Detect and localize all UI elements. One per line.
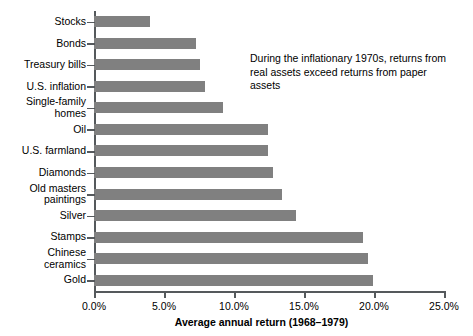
x-axis-tick (374, 291, 376, 298)
bar-row (94, 226, 444, 248)
y-axis-tick (87, 259, 95, 261)
x-axis-tick (444, 291, 446, 298)
y-axis-tick (87, 237, 95, 239)
y-axis-label: U.S. farmland (0, 145, 86, 157)
y-axis-label: Old masters paintings (0, 183, 86, 206)
bar (94, 232, 363, 243)
x-axis-tick (304, 291, 306, 298)
y-axis-tick (87, 108, 95, 110)
x-axis-tick (234, 291, 236, 298)
y-axis-label: Treasury bills (0, 59, 86, 71)
bar-row (94, 140, 444, 162)
bar (94, 124, 268, 135)
y-axis-label: Stocks (0, 16, 86, 28)
x-axis-line (94, 291, 445, 293)
y-axis-tick (87, 280, 95, 282)
y-axis-label: Single-family homes (0, 96, 86, 119)
bar (94, 81, 205, 92)
y-axis-tick (87, 65, 95, 67)
bar-row (94, 11, 444, 33)
x-axis-title: Average annual return (1968–1979) (0, 316, 473, 328)
bar (94, 167, 273, 178)
y-axis-tick (87, 151, 95, 153)
bar (94, 102, 223, 113)
chart-annotation: During the inflationary 1970s, returns f… (250, 52, 450, 93)
y-axis-label: Diamonds (0, 167, 86, 179)
y-axis-tick (87, 173, 95, 175)
x-axis-tick-label: 15.0% (289, 300, 319, 312)
bar (94, 253, 368, 264)
y-axis-label: U.S. inflation (0, 81, 86, 93)
x-axis-tick-label: 20.0% (359, 300, 389, 312)
y-axis-tick (87, 43, 95, 45)
bar-row (94, 119, 444, 141)
x-axis-tick-label: 25.0% (429, 300, 459, 312)
y-axis-label: Stamps (0, 231, 86, 243)
y-axis-tick (87, 22, 95, 24)
x-axis-tick (164, 291, 166, 298)
bar-row (94, 33, 444, 55)
x-axis-tick (94, 291, 96, 298)
bar (94, 145, 268, 156)
bar (94, 210, 296, 221)
y-axis-category-labels: StocksBondsTreasury billsU.S. inflationS… (0, 11, 86, 291)
bar-row (94, 162, 444, 184)
bar (94, 275, 373, 286)
bar (94, 16, 150, 27)
y-axis-tick (87, 194, 95, 196)
bar (94, 59, 200, 70)
y-axis-label: Chinese ceramics (0, 247, 86, 270)
y-axis-tick (87, 129, 95, 131)
y-axis-tick (87, 216, 95, 218)
y-axis-label: Oil (0, 124, 86, 136)
bar (94, 38, 196, 49)
y-axis-label: Bonds (0, 38, 86, 50)
bar-chart: StocksBondsTreasury billsU.S. inflationS… (0, 0, 473, 336)
y-axis-label: Gold (0, 274, 86, 286)
x-axis-tick-label: 10.0% (219, 300, 249, 312)
bar-row (94, 205, 444, 227)
y-axis-label: Silver (0, 210, 86, 222)
bar-row (94, 97, 444, 119)
x-axis-tick-label: 5.0% (152, 300, 176, 312)
bar-row (94, 269, 444, 291)
y-axis-tick (87, 86, 95, 88)
bar-row (94, 183, 444, 205)
x-axis-tick-label: 0.0% (82, 300, 106, 312)
bar-row (94, 248, 444, 270)
bar (94, 189, 282, 200)
